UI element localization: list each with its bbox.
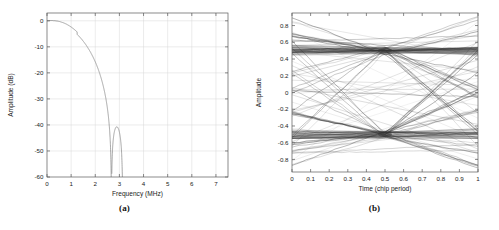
tick-or-axis-label: -0.2 [278,105,289,112]
tick-or-axis-label: 1 [69,180,73,187]
tick-or-axis-label: 0 [45,180,49,187]
spectrum-plot: 012345670-10-20-30-40-50-60Frequency (MH… [0,0,249,200]
panel-a: 012345670-10-20-30-40-50-60Frequency (MH… [0,0,249,230]
subcaption-a: (a) [0,203,249,213]
tick-or-axis-label: 0.9 [455,175,464,182]
tick-or-axis-label: 0.8 [436,175,445,182]
eye-diagram-plot: 00.10.20.30.40.50.60.70.80.910.80.60.40.… [250,0,499,200]
tick-or-axis-label: 0.6 [399,175,408,182]
tick-or-axis-label: 0.8 [280,22,289,29]
tick-or-axis-label: 0 [40,17,44,24]
tick-or-axis-label: 4 [142,180,146,187]
tick-or-axis-label: -60 [35,173,45,180]
tick-or-axis-label: -20 [35,69,45,76]
tick-or-axis-label: -0.6 [278,139,289,146]
tick-or-axis-label: 0.7 [418,175,427,182]
tick-or-axis-label: 2 [94,180,98,187]
tick-or-axis-label: 7 [214,180,218,187]
eye-traces [292,17,478,168]
grid-lines [47,13,228,177]
tick-or-axis-label: 0.1 [306,175,315,182]
tick-or-axis-label: -0.4 [278,122,289,129]
tick-or-axis-label: 0.5 [381,175,390,182]
plot-frame [47,13,228,177]
axis-ticks [47,13,228,177]
tick-or-axis-label: 3 [118,180,122,187]
tick-or-axis-label: 0.4 [362,175,371,182]
tick-or-axis-label: 0.3 [343,175,352,182]
tick-or-axis-label: 6 [190,180,194,187]
tick-or-axis-label: -10 [35,43,45,50]
tick-or-axis-label: Amplitude (dB) [7,73,15,117]
tick-or-axis-label: 0.2 [280,72,289,79]
tick-or-axis-label: -50 [35,147,45,154]
tick-or-axis-label: -30 [35,95,45,102]
tick-or-axis-label: 1 [476,175,480,182]
tick-or-axis-label: Time (chip period) [359,185,412,193]
tick-or-axis-label: Frequency (MHz) [112,190,163,198]
tick-or-axis-label: 0 [290,175,294,182]
tick-or-axis-label: -0.8 [278,156,289,163]
tick-or-axis-label: 5 [166,180,170,187]
tick-or-axis-label: 0 [285,89,289,96]
tick-or-axis-label: 0.4 [280,55,289,62]
panel-b: 00.10.20.30.40.50.60.70.80.910.80.60.40.… [250,0,499,230]
tick-or-axis-label: 0.2 [325,175,334,182]
tick-or-axis-label: Amplitude [255,78,263,108]
figure-container: 012345670-10-20-30-40-50-60Frequency (MH… [0,0,499,230]
tick-or-axis-label: 0.6 [280,38,289,45]
tick-or-axis-label: -40 [35,121,45,128]
subcaption-b: (b) [250,203,499,213]
